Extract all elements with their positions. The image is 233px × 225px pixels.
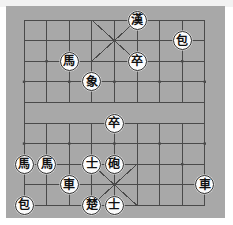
piece-glyph: 車 [199,179,211,191]
piece-advisor-shi[interactable]: 士 [82,155,101,174]
piece-chariot-ju[interactable]: 車 [195,175,214,194]
piece-glyph: 馬 [41,158,53,170]
piece-glyph: 士 [86,158,98,170]
piece-pawn-zu[interactable]: 卒 [128,52,147,71]
piece-cannon-bao[interactable]: 包 [173,31,192,50]
piece-glyph: 卒 [108,117,120,129]
piece-glyph: 漢 [131,14,143,26]
piece-general-chu[interactable]: 楚 [82,196,101,215]
piece-cannon-bao[interactable]: 包 [15,196,34,215]
piece-advisor-shi[interactable]: 士 [105,196,124,215]
piece-pawn-zu[interactable]: 卒 [105,114,124,133]
piece-glyph: 馬 [63,55,75,67]
piece-horse-ma[interactable]: 馬 [15,155,34,174]
board-surface[interactable]: 漢包馬卒象卒馬馬士砲車車包楚士 [6,6,225,218]
xiangqi-app: 漢包馬卒象卒馬馬士砲車車包楚士 [0,0,233,225]
piece-chariot-ju[interactable]: 車 [60,175,79,194]
piece-cannon-pao[interactable]: 砲 [105,155,124,174]
pieces-layer: 漢包馬卒象卒馬馬士砲車車包楚士 [6,6,225,218]
piece-glyph: 包 [176,35,188,47]
piece-glyph: 車 [63,179,75,191]
piece-horse-ma[interactable]: 馬 [60,52,79,71]
piece-elephant-xiang[interactable]: 象 [82,72,101,91]
piece-glyph: 砲 [108,158,120,170]
piece-glyph: 卒 [131,55,143,67]
piece-glyph: 象 [86,76,98,88]
bottom-gutter [0,218,233,225]
piece-glyph: 士 [108,199,120,211]
board-frame: 漢包馬卒象卒馬馬士砲車車包楚士 [6,6,225,218]
piece-horse-ma[interactable]: 馬 [37,155,56,174]
piece-glyph: 馬 [18,158,30,170]
piece-glyph: 楚 [86,199,98,211]
piece-general-han[interactable]: 漢 [128,11,147,30]
piece-glyph: 包 [18,199,30,211]
